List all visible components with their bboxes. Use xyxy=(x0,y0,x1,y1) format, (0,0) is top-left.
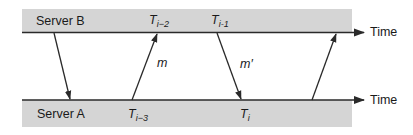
timestamp-subscript: i−2 xyxy=(157,19,169,29)
timestamp-subscript: i-1 xyxy=(219,19,229,29)
message-arrow-m-prime xyxy=(217,33,241,99)
timestamp-t-i-minus-2: Ti−2 xyxy=(149,14,169,27)
message-arrow-4 xyxy=(312,34,336,100)
server-a-label: Server A xyxy=(37,108,85,121)
timestamp-t-i-minus-3: Ti−3 xyxy=(128,108,148,121)
timestamp-base: T xyxy=(240,107,248,121)
message-label-m-prime: m′ xyxy=(240,58,253,71)
message-arrow-1 xyxy=(54,33,70,99)
time-axis-label-bottom: Time xyxy=(370,94,397,107)
server-b-label: Server B xyxy=(36,15,85,28)
message-arrow-m xyxy=(132,34,157,100)
timestamp-t-i: Ti xyxy=(240,108,250,121)
timestamp-base: T xyxy=(128,107,136,121)
time-axis-label-top: Time xyxy=(370,26,397,39)
timestamp-t-i-minus-1: Ti-1 xyxy=(211,14,229,27)
timestamp-base: T xyxy=(149,13,157,27)
timestamp-subscript: i−3 xyxy=(136,113,148,123)
timestamp-subscript: i xyxy=(248,113,250,123)
message-label-m: m xyxy=(157,57,167,70)
timestamp-base: T xyxy=(211,13,219,27)
